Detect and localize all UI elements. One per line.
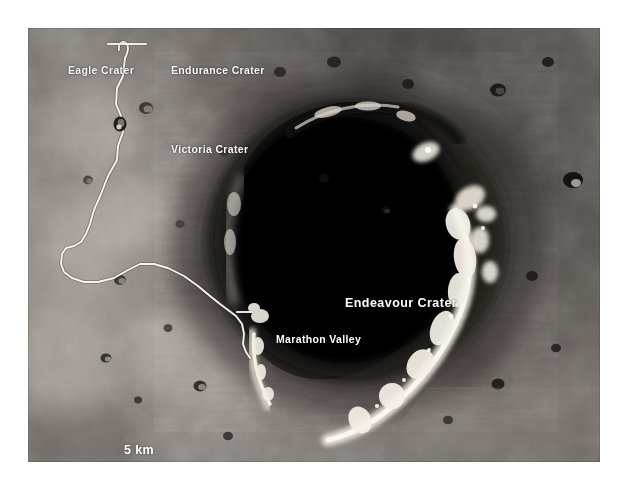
traverse-path [61,42,250,358]
orbital-image-plate: Eagle Crater Endurance Crater Victoria C… [28,28,600,462]
victoria-crater-marker [114,117,127,132]
figure-root: Eagle Crater Endurance Crater Victoria C… [0,0,632,487]
rover-traverse-layer [28,28,600,462]
